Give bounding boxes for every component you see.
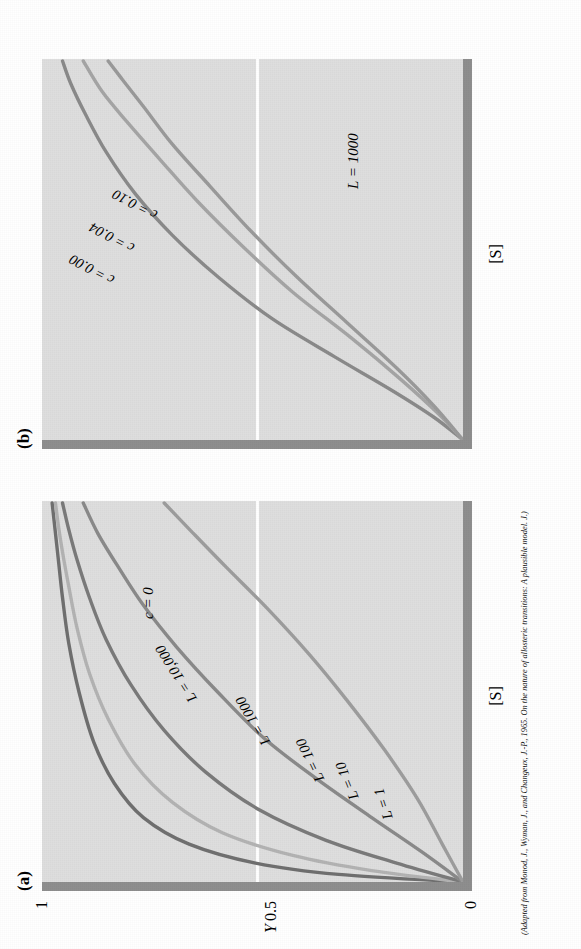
y-tick-mid-value: 0.5 — [262, 901, 279, 921]
panel-b-y-axis-rail — [42, 440, 472, 449]
page-frame: (a) 1 Y0.5 0 [S] (b) [S] L = 1 — [0, 0, 581, 949]
y-tick-bottom: 0 — [462, 901, 480, 935]
panel-b-plot-area — [42, 59, 472, 449]
curve-l-100 — [63, 503, 463, 882]
y-tick-mid: Y0.5 — [262, 901, 280, 949]
panel-a-x-axis-rail — [463, 501, 472, 891]
curve-c-0-10 — [108, 61, 463, 440]
panel-a-annotation-c: c = 0 — [140, 587, 157, 619]
curve-l-10 — [55, 503, 463, 882]
panel-a-letter: (a) — [14, 871, 34, 891]
panel-b-annotation-l: L = 1000 — [345, 133, 362, 189]
y-tick-top: 1 — [33, 901, 51, 935]
curve-l-1000 — [83, 503, 463, 882]
figure-canvas: (a) 1 Y0.5 0 [S] (b) [S] L = 1 — [0, 0, 581, 949]
panel-a-x-label: [S] — [487, 501, 505, 891]
panel-a-curves — [42, 501, 472, 891]
panel-b-curves — [42, 59, 472, 449]
figure-caption: (Adapted from Monod, J., Wyman, J., and … — [520, 10, 531, 935]
panel-a-y-axis-rail — [42, 882, 472, 891]
panel-b-x-label: [S] — [487, 59, 505, 449]
panel-b-x-axis-rail — [463, 59, 472, 449]
curve-c-0-04 — [83, 61, 463, 440]
panel-a-plot-area — [42, 501, 472, 891]
panel-b-letter: (b) — [14, 428, 34, 449]
panel-a — [42, 501, 472, 891]
panel-b — [42, 59, 472, 449]
y-axis-label: Y — [262, 924, 279, 933]
